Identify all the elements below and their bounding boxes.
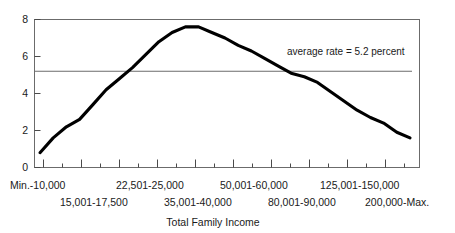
y-tick-label-0: 0 xyxy=(22,161,28,173)
x-category-50001-60000: 50,001-60,000 xyxy=(220,179,288,191)
average-rate-annotation-label: average rate = 5.2 percent xyxy=(287,46,405,57)
x-category-min-10000: Min.-10,000 xyxy=(10,179,66,191)
y-tick-label-6: 6 xyxy=(22,50,28,62)
x-category-35001-40000: 35,001-40,000 xyxy=(164,196,232,208)
x-axis-title: Total Family Income xyxy=(166,216,260,228)
plot-frame xyxy=(35,20,420,168)
x-category-22501-25000: 22,501-25,000 xyxy=(116,179,184,191)
x-category-80001-90000: 80,001-90,000 xyxy=(268,196,336,208)
chart-figure: 8 6 4 2 0 xyxy=(0,0,455,233)
x-category-labels-lower: 15,001-17,500 35,001-40,000 80,001-90,00… xyxy=(60,196,429,208)
x-category-15001-17500: 15,001-17,500 xyxy=(60,196,128,208)
x-axis-ticks xyxy=(44,160,405,168)
x-category-200000-max: 200,000-Max. xyxy=(365,196,429,208)
y-tick-label-4: 4 xyxy=(22,87,28,99)
y-tick-label-8: 8 xyxy=(22,13,28,25)
y-axis-tick-labels: 8 6 4 2 0 xyxy=(22,13,28,173)
x-category-labels-upper: Min.-10,000 22,501-25,000 50,001-60,000 … xyxy=(10,179,400,191)
x-category-125001-150000: 125,001-150,000 xyxy=(320,179,400,191)
y-tick-label-2: 2 xyxy=(22,124,28,136)
chart-canvas: 8 6 4 2 0 xyxy=(0,0,455,233)
y-axis-ticks xyxy=(35,20,41,168)
